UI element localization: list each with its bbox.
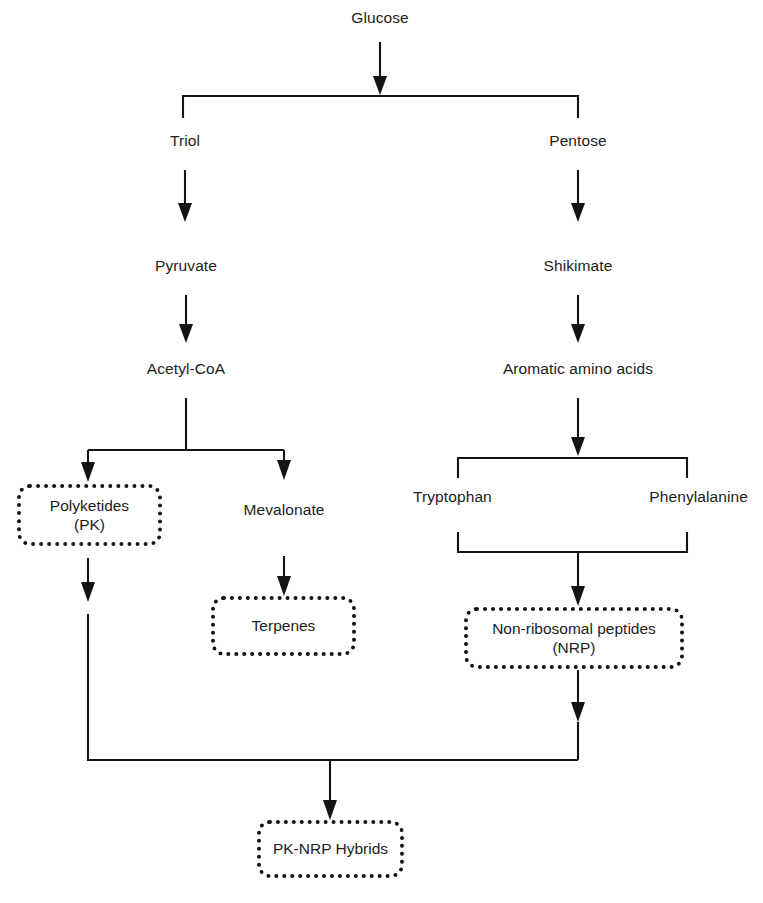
node-pyruvate: Pyruvate: [155, 256, 217, 275]
node-glucose: Glucose: [351, 8, 409, 27]
node-tryptophan: Tryptophan: [413, 487, 492, 506]
pathway-diagram: Glucose Triol Pentose Pyruvate Shikimate…: [0, 0, 763, 903]
node-non-ribosomal-peptides-label: Non-ribosomal peptides (NRP): [486, 619, 662, 658]
node-pk-nrp-hybrids-box: PK-NRP Hybrids: [257, 820, 404, 878]
connector-lines: [0, 0, 763, 903]
node-mevalonate: Mevalonate: [243, 500, 324, 519]
node-polyketides-box: Polyketides (PK): [17, 484, 162, 546]
node-pentose: Pentose: [549, 131, 607, 150]
node-phenylalanine: Phenylalanine: [649, 487, 748, 506]
node-pk-nrp-hybrids-label: PK-NRP Hybrids: [267, 839, 394, 858]
node-terpenes-label: Terpenes: [246, 616, 322, 635]
node-polyketides-label: Polyketides (PK): [44, 496, 135, 535]
node-aromatic-amino-acids: Aromatic amino acids: [503, 359, 653, 378]
node-non-ribosomal-peptides-box: Non-ribosomal peptides (NRP): [464, 607, 684, 669]
node-shikimate: Shikimate: [544, 256, 613, 275]
node-terpenes-box: Terpenes: [211, 596, 356, 656]
node-acetyl-coa: Acetyl-CoA: [147, 359, 226, 378]
node-triol: Triol: [170, 131, 200, 150]
